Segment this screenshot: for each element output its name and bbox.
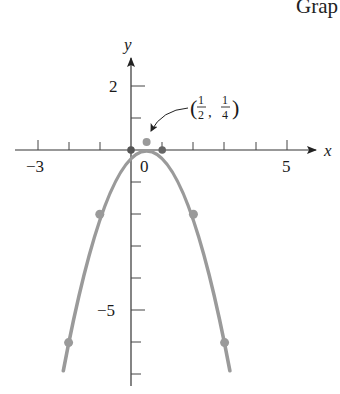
vertex-annotation-arrow [151,108,188,131]
point-0-0 [127,146,135,154]
parabola-curve [63,151,230,371]
svg-text:(: ( [190,95,197,120]
vertex-annotation-label: ( 1 2 , 1 4 ) [190,93,239,122]
y-tick-label-2: 2 [109,77,118,96]
svg-text:4: 4 [222,108,228,122]
point-neg2-neg6 [64,338,73,347]
y-axis-ticks [131,86,145,374]
svg-text:,: , [208,104,212,120]
svg-text:): ) [232,95,239,120]
x-axis: −3 0 5 x [15,140,332,176]
x-tick-label-neg3: −3 [26,157,44,176]
point-1-0 [158,146,166,154]
svg-text:2: 2 [198,108,204,122]
point-3-neg6 [220,338,229,347]
point-2-neg2 [189,210,198,219]
svg-text:1: 1 [198,93,204,107]
svg-text:1: 1 [222,93,228,107]
parabola-chart: −3 0 5 x 2 −5 y [0,0,340,394]
point-vertex [143,138,151,146]
x-axis-label: x [323,141,332,160]
y-tick-label-neg5: −5 [97,301,115,320]
x-tick-label-5: 5 [282,157,291,176]
y-axis-label: y [122,35,132,54]
x-tick-label-0: 0 [140,157,149,176]
point-neg1-neg2 [95,210,104,219]
